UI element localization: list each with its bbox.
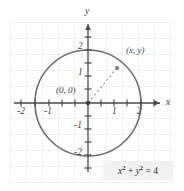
- y-tick-label-neg1: -1: [74, 121, 82, 131]
- point-xy-label: (x, y): [126, 46, 144, 55]
- y-tick-label-2: 2: [78, 42, 83, 52]
- circle-point-marker: [115, 66, 119, 70]
- y-axis-label: y: [85, 7, 89, 17]
- x-tick-label-neg2: -2: [17, 107, 25, 117]
- equation-box: x2 + y2 = 4: [103, 161, 173, 180]
- x-tick-label-1: 1: [112, 107, 117, 117]
- x-tick-label-neg1: -1: [44, 107, 52, 117]
- equation-text: x2 + y2 = 4: [118, 164, 158, 176]
- y-tick-label-neg2: -2: [74, 148, 82, 158]
- circle-graph-figure: -2 -1 1 2 2 1 -1 -2 x y (0, 0) (x, y) x2…: [0, 0, 184, 191]
- x-tick-label-2: 2: [137, 107, 142, 117]
- y-tick-label-1: 1: [78, 68, 83, 78]
- origin-label: (0, 0): [56, 86, 76, 95]
- origin-point-marker: [86, 101, 90, 105]
- x-axis-arrowhead: [154, 100, 160, 106]
- x-axis-label: x: [166, 98, 170, 108]
- equation-rhs-value: 4: [153, 167, 158, 177]
